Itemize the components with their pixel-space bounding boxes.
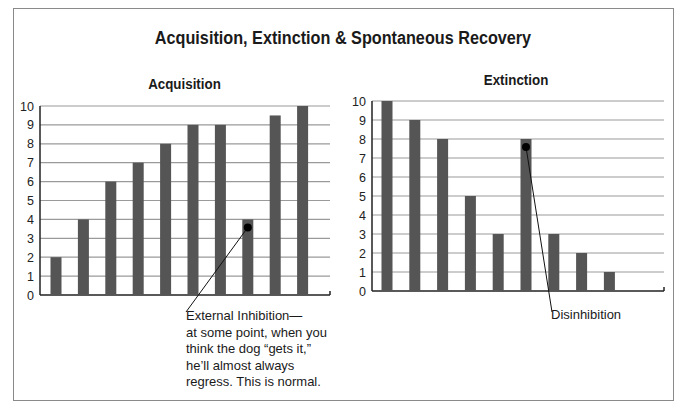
y-tick-label: 10	[20, 100, 34, 114]
y-tick-label: 0	[359, 285, 366, 299]
y-tick-label: 2	[359, 247, 366, 261]
y-tick-label: 7	[27, 156, 34, 170]
y-tick-label: 1	[359, 266, 366, 280]
bar	[604, 272, 615, 291]
bar	[51, 257, 62, 295]
y-tick-label: 8	[27, 137, 34, 151]
annotation-dot	[244, 223, 252, 231]
bar	[133, 163, 144, 295]
y-tick-label: 5	[359, 190, 366, 204]
y-tick-label: 6	[27, 175, 34, 189]
bar	[105, 182, 116, 295]
y-tick-label: 6	[359, 171, 366, 185]
charts-canvas: 012345678910012345678910	[0, 0, 686, 412]
y-tick-label: 4	[27, 213, 34, 227]
bar	[576, 253, 587, 291]
y-tick-label: 10	[352, 95, 366, 109]
y-tick-label: 1	[27, 270, 34, 284]
y-tick-label: 8	[359, 133, 366, 147]
y-tick-label: 9	[359, 114, 366, 128]
bar	[188, 125, 199, 295]
bar	[521, 139, 532, 291]
bar	[78, 219, 89, 295]
y-tick-label: 3	[359, 228, 366, 242]
bar	[548, 234, 559, 291]
bar	[409, 120, 420, 291]
bar	[465, 196, 476, 291]
y-tick-label: 5	[27, 194, 34, 208]
bar	[437, 139, 448, 291]
y-tick-label: 7	[359, 152, 366, 166]
bar	[270, 115, 281, 295]
bar	[297, 106, 308, 295]
disinhibition-annotation: Disinhibition	[551, 307, 621, 324]
y-tick-label: 9	[27, 118, 34, 132]
y-tick-label: 3	[27, 232, 34, 246]
bar	[160, 144, 171, 295]
bar	[382, 101, 393, 291]
annotation-dot	[522, 143, 530, 151]
y-tick-label: 4	[359, 209, 366, 223]
y-tick-label: 0	[27, 289, 34, 303]
external-inhibition-annotation: External Inhibition— at some point, when…	[186, 308, 327, 391]
bar	[493, 234, 504, 291]
y-tick-label: 2	[27, 251, 34, 265]
